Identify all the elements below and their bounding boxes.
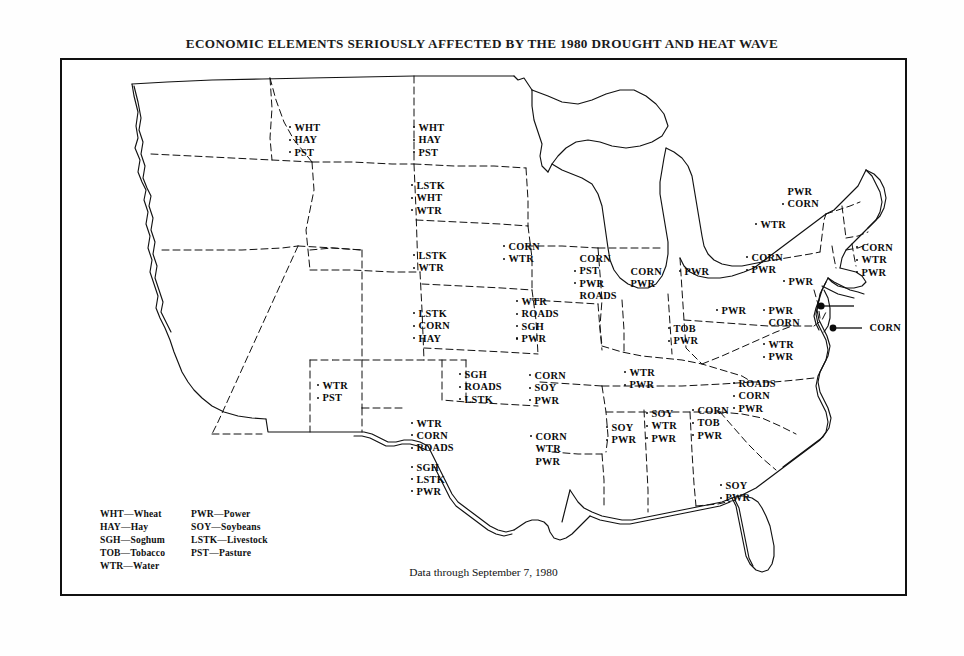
label-item: CORN [412,320,450,332]
label-item: PWR [782,276,813,288]
map-label-north-carolina: WTR PWR [762,339,794,364]
label-item: ROADS [573,290,617,302]
label-item: WHT [288,122,320,134]
label-item: CORN [529,431,567,443]
legend-row: WHT—Wheat PWR—Power [100,507,268,520]
label-item: HAY [412,134,444,146]
label-item: ROADS [458,381,502,393]
label-item: PWR [781,186,819,198]
legend-entry: PST—Pasture [165,546,268,559]
map-label-new-york: PWR CORN [781,186,819,211]
label-item: TOB [667,323,698,335]
label-item: CORN [410,430,454,442]
label-item: PST [288,147,320,159]
label-item: WTR [855,254,893,266]
label-item: PWR [691,430,729,442]
legend-entry: TOB—Tobacco [100,546,165,559]
map-label-alabama: SOY WTR PWR [645,408,677,445]
map-frame: WHT HAY PST WHT HAY PST LSTK WHT WTR LST… [60,58,907,596]
map-label-arkansas: CORN SOY PWR [528,370,566,407]
legend: WHT—Wheat PWR—Power HAY—Hay SOY—Soybeans… [100,507,268,572]
label-item: HAY [288,134,320,146]
label-item: TOB [691,417,729,429]
legend-entry: PWR—Power [165,507,268,520]
page-title: ECONOMIC ELEMENTS SERIOUSLY AFFECTED BY … [0,36,964,52]
legend-entry: SGH—Soghum [100,533,165,546]
label-item: CORN [781,198,819,210]
label-item: SGH [410,462,454,474]
label-item: WTR [645,420,677,432]
label-item: PWR [529,456,567,468]
map-label-illinois: CORN PST PWR ROADS [573,253,617,303]
label-item: PWR [528,395,566,407]
label-item: CORN [855,242,893,254]
map-label-south-dakota: LSTK WHT WTR [410,180,445,217]
label-item: PST [573,265,617,277]
label-item: PWR [623,379,655,391]
legend-entry: LSTK—Livestock [165,533,268,546]
legend-row: SGH—Soghum LSTK—Livestock [100,533,268,546]
label-item: HAY [412,333,450,345]
label-item: WHT [410,192,445,204]
map-label-kansas: LSTK CORN HAY [412,308,450,345]
label-item: ROADS [732,378,776,390]
label-item: WTR [529,443,567,455]
label-item: PWR [624,278,662,290]
label-item: LSTK [412,250,447,262]
map-label-south-carolina: ROADS CORN PWR [732,378,776,415]
legend-entry: HAY—Hay [100,520,165,533]
label-item: LSTK [412,308,450,320]
map-page: ECONOMIC ELEMENTS SERIOUSLY AFFECTED BY … [0,0,964,656]
label-item: CORN [502,241,540,253]
map-label-southwest: WTR PST [316,380,348,405]
label-item: LSTK [410,474,454,486]
label-item: PWR [762,351,794,363]
label-item: PST [412,147,444,159]
map-label-nebraska: LSTK WTR [412,250,447,275]
label-item: CORN [745,252,783,264]
label-item: PWR [762,305,800,317]
map-label-maryland-callout: PWR [782,276,813,288]
map-label-pennsylvania: CORN PWR [745,252,783,277]
label-item: CORN [624,266,662,278]
label-item: LSTK [458,394,502,406]
map-label-louisiana: CORN WTR PWR [529,431,567,468]
map-label-oklahoma: SGH ROADS LSTK [458,369,502,406]
map-label-indiana: CORN PWR [624,266,662,291]
label-item: SGH [515,321,559,333]
label-item: PWR [715,305,746,317]
map-label-north-dakota: WHT HAY PST [412,122,444,159]
legend-table: WHT—Wheat PWR—Power HAY—Hay SOY—Soybeans… [100,507,268,572]
map-label-tennessee: WTR PWR [623,367,655,392]
map-label-missouri: WTR ROADS SGH PWR [515,296,559,346]
label-item: WTR [623,367,655,379]
label-item: PWR [719,492,750,504]
map-label-west-virginia: PWR [715,305,746,317]
label-item: ROADS [410,442,454,454]
map-label-montana: WHT HAY PST [288,122,320,159]
label-item: PWR [732,403,776,415]
label-item: WTR [410,418,454,430]
map-label-iowa: CORN WTR [502,241,540,266]
label-item: CORN [573,253,617,265]
label-item: WHT [412,122,444,134]
legend-entry: WHT—Wheat [100,507,165,520]
data-through-note: Data through September 7, 1980 [62,566,905,578]
map-label-georgia: CORN TOB PWR [691,405,729,442]
map-label-lake-erie: WTR [754,219,786,231]
label-item: PWR [667,335,698,347]
label-item: PWR [645,433,677,445]
label-item: PWR [605,434,636,446]
legend-row: TOB—Tobacco PST—Pasture [100,546,268,559]
label-item: WTR [412,262,447,274]
label-item: PST [316,392,348,404]
map-label-mississippi: SOY PWR [605,422,636,447]
label-item: LSTK [410,180,445,192]
label-item: WTR [515,296,559,308]
label-item: WTR [410,205,445,217]
label-item: ROADS [515,308,559,320]
label-item: PWR [745,264,783,276]
label-item: WTR [762,339,794,351]
label-item: PWR [410,486,454,498]
label-item: PWR [855,267,893,279]
